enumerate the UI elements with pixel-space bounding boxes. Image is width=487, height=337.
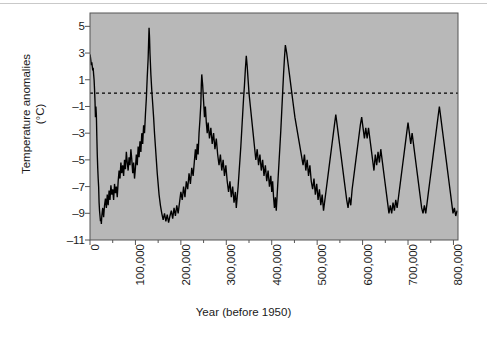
y-tick-label: –1	[57, 100, 85, 112]
x-tick-label: 300,000	[225, 244, 237, 286]
y-tick-label: 1	[57, 74, 85, 86]
x-axis-title: Year (before 1950)	[0, 306, 487, 318]
y-axis-tick-marks	[85, 26, 90, 240]
x-axis-tick-labels: 0100,000200,000300,000400,000500,000600,…	[0, 244, 487, 304]
x-tick-label: 200,000	[180, 244, 192, 286]
y-tick-label: –7	[57, 181, 85, 193]
y-tick-label: –9	[57, 207, 85, 219]
y-tick-label: 5	[57, 20, 85, 32]
y-axis-title: Temperature anomalies(°C)	[19, 34, 47, 194]
y-axis-title-line2: (°C)	[34, 104, 46, 125]
x-tick-label: 400,000	[271, 244, 283, 286]
y-axis-title-line1: Temperature anomalies	[20, 54, 32, 174]
y-tick-label: –5	[57, 154, 85, 166]
x-tick-label: 600,000	[362, 244, 374, 286]
y-tick-label: –3	[57, 127, 85, 139]
x-tick-label: 700,000	[407, 244, 419, 286]
temperature-anomaly-chart: Temperature anomalies(°C) 531–1–3–5–7–9–…	[0, 0, 487, 337]
x-tick-label: 500,000	[316, 244, 328, 286]
x-tick-label: 800,000	[452, 244, 464, 286]
y-tick-label: 3	[57, 47, 85, 59]
x-tick-label: 0	[89, 244, 101, 250]
x-tick-label: 100,000	[134, 244, 146, 286]
